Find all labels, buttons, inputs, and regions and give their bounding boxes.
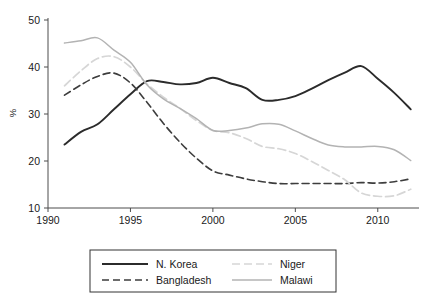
x-axis-ticks: 19901995200020052010 xyxy=(36,208,389,226)
y-tick-label: 10 xyxy=(28,202,40,214)
x-tick-label: 2000 xyxy=(201,214,225,226)
series-line-n-korea xyxy=(64,66,410,145)
legend-label-n-korea: N. Korea xyxy=(156,258,198,270)
series-line-bangladesh xyxy=(64,73,410,184)
legend-label-malawi: Malawi xyxy=(280,274,313,286)
legend-label-niger: Niger xyxy=(280,258,306,270)
x-tick-label: 2010 xyxy=(366,214,390,226)
y-tick-label: 20 xyxy=(28,155,40,167)
y-tick-label: 40 xyxy=(28,61,40,73)
y-tick-label: 30 xyxy=(28,108,40,120)
line-chart: 1020304050 19901995200020052010 % N. Kor… xyxy=(0,0,425,302)
x-tick-label: 2005 xyxy=(284,214,308,226)
series-lines xyxy=(64,37,410,196)
chart-legend: N. KoreaBangladeshNigerMalawi xyxy=(90,250,336,292)
series-line-malawi xyxy=(64,37,410,160)
legend-label-bangladesh: Bangladesh xyxy=(156,274,212,286)
y-axis-ticks: 1020304050 xyxy=(28,14,48,214)
x-tick-label: 1995 xyxy=(119,214,143,226)
y-axis-title: % xyxy=(7,108,18,117)
y-tick-label: 50 xyxy=(28,14,40,26)
series-line-niger xyxy=(64,56,410,197)
chart-container: 1020304050 19901995200020052010 % N. Kor… xyxy=(0,0,425,302)
x-tick-label: 1990 xyxy=(36,214,60,226)
